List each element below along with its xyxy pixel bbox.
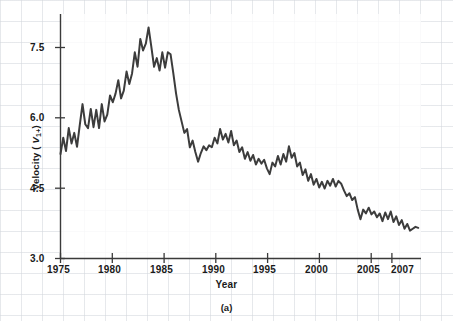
- velocity-series-line: [61, 27, 419, 230]
- chart-svg: [0, 0, 453, 321]
- axes-group: [61, 14, 422, 259]
- figure-panel: Velocity ( V1+) 7.5 6.0 4.5 3.0 1975 198…: [0, 0, 453, 321]
